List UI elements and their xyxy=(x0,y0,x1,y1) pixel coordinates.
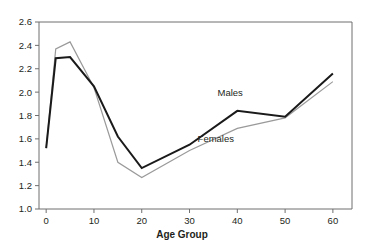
y-tick-label: 2.0 xyxy=(19,87,32,98)
x-tick-label: 10 xyxy=(89,215,100,226)
series-label-females: Females xyxy=(198,133,235,144)
x-tick-label: 60 xyxy=(328,215,339,226)
x-tick-label: 30 xyxy=(184,215,195,226)
y-tick-label: 2.4 xyxy=(19,40,32,51)
line-chart: 1.01.21.41.61.82.02.22.42.6 010203040506… xyxy=(0,0,365,247)
x-tick-label: 20 xyxy=(136,215,147,226)
x-tick-label: 0 xyxy=(44,215,49,226)
y-tick-label: 1.6 xyxy=(19,133,32,144)
y-tick-label: 2.6 xyxy=(19,16,32,27)
y-tick-label: 1.2 xyxy=(19,180,32,191)
x-axis-title: Age Group xyxy=(156,229,208,240)
x-tick-label: 40 xyxy=(232,215,243,226)
chart-canvas: 1.01.21.41.61.82.02.22.42.6 010203040506… xyxy=(0,0,365,247)
y-tick-label: 1.8 xyxy=(19,110,32,121)
y-tick-label: 2.2 xyxy=(19,63,32,74)
y-tick-label: 1.4 xyxy=(19,157,32,168)
chart-background xyxy=(0,0,365,247)
y-tick-label: 1.0 xyxy=(19,203,32,214)
series-label-males: Males xyxy=(217,87,243,98)
y-axis-tick-labels: 1.01.21.41.61.82.02.22.42.6 xyxy=(19,16,32,214)
x-tick-label: 50 xyxy=(280,215,291,226)
